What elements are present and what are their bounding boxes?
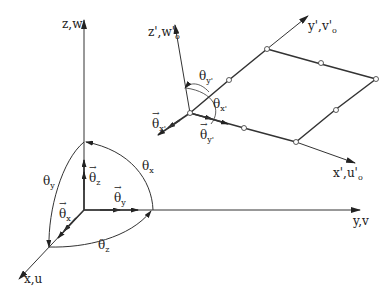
svg-text:θy': θy': [200, 128, 214, 144]
node-8: [242, 126, 247, 131]
node-3: [265, 47, 270, 52]
node-6: [334, 108, 339, 113]
local-x-label: x',u'o: [333, 166, 363, 182]
svg-text:θx': θx': [213, 97, 227, 113]
svg-text:→: →: [200, 119, 208, 129]
theta-x-vector-label: θx →: [59, 198, 71, 223]
theta-y-prime-vector-icon: [190, 113, 228, 124]
global-x-label: x,u: [24, 272, 43, 286]
svg-text:θy': θy': [199, 69, 213, 85]
svg-text:θx': θx': [152, 117, 166, 133]
svg-text:θz: θz: [98, 238, 109, 254]
theta-x-arc-label: θx: [142, 159, 154, 175]
theta-y-prime-arc-label: θy': [199, 69, 213, 85]
global-y-label: y,v: [352, 214, 369, 228]
theta-y-arc: [49, 142, 84, 247]
svg-text:y',v'o: y',v'o: [307, 19, 337, 35]
element-nodes: [188, 47, 379, 145]
local-y-axis: [267, 16, 308, 49]
node-4: [319, 61, 324, 66]
svg-text:θy: θy: [43, 174, 55, 190]
node-1: [188, 111, 193, 116]
node-5: [374, 77, 379, 82]
theta-y-vector-label: θy →: [114, 182, 126, 207]
svg-text:x',u'o: x',u'o: [333, 166, 363, 182]
theta-y-arc-label: θy: [43, 174, 55, 190]
node-2: [227, 78, 232, 83]
svg-text:θy: θy: [114, 191, 126, 207]
local-x-axis: [296, 142, 355, 163]
theta-x-prime-arc-label: θx': [213, 97, 227, 113]
svg-text:→: →: [59, 198, 67, 208]
coordinate-system-diagram: z,w y,v x,u θz → θy → θx → θx θy θz: [0, 0, 391, 297]
shell-element: [190, 49, 376, 142]
theta-z-vector-label: θz →: [89, 162, 100, 187]
svg-text:θx: θx: [59, 207, 71, 223]
svg-text:→: →: [114, 182, 122, 192]
svg-text:θz: θz: [89, 171, 100, 187]
local-y-label: y',v'o: [307, 19, 337, 35]
svg-text:→: →: [89, 162, 97, 172]
node-7: [294, 140, 299, 145]
theta-x-prime-vector-label: θx' →: [152, 108, 166, 133]
theta-z-arc-label: θz: [98, 238, 109, 254]
svg-text:θx: θx: [142, 159, 154, 175]
diagram-svg: z,w y,v x,u θz → θy → θx → θx θy θz: [0, 0, 391, 297]
svg-text:→: →: [152, 108, 160, 118]
global-z-label: z,w: [62, 17, 83, 31]
